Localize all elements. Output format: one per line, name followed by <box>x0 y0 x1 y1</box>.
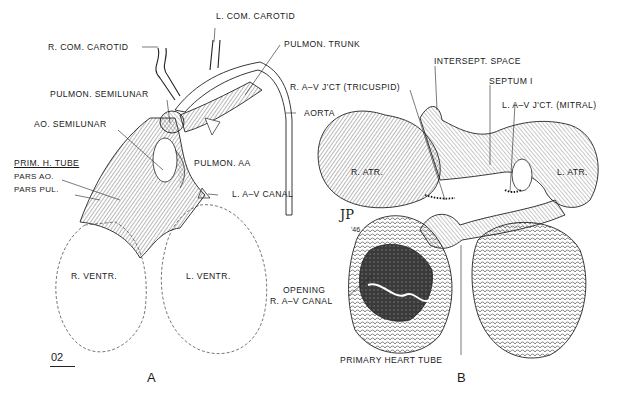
label-opening-line1: OPENING <box>283 286 325 295</box>
label-septum-i: SEPTUM I <box>489 77 533 86</box>
label-aorta: AORTA <box>304 109 335 118</box>
label-l-av-canal: L. A–V CANAL <box>232 190 293 199</box>
scale-label: 02 <box>51 351 63 363</box>
label-pars-pul: PARS PUL. <box>14 186 59 194</box>
label-intersept-space: INTERSEPT. SPACE <box>434 57 521 66</box>
label-l-av-jct: L. A–V J'CT. (MITRAL) <box>502 101 597 110</box>
label-pulmon-semilunar: PULMON. SEMILUNAR <box>50 90 148 99</box>
primary-tube <box>80 118 205 258</box>
panel-letter-b: B <box>457 370 466 385</box>
label-r-com-carotid: R. COM. CAROTID <box>48 43 128 52</box>
label-pulmon-trunk: PULMON. TRUNK <box>284 40 360 49</box>
label-r-av-jct: R. A–V J'CT (TRICUSPID) <box>290 83 400 92</box>
artist-signature: JP <box>340 207 354 222</box>
artist-signature-year: '46 <box>351 226 360 233</box>
label-prim-h-tube: PRIM. H. TUBE <box>14 159 79 168</box>
label-pars-ao: PARS AO. <box>14 173 54 181</box>
label-pulmon-aa: PULMON. AA <box>194 159 251 168</box>
label-l-atr: L. ATR. <box>557 168 588 177</box>
label-r-ventr: R. VENTR. <box>71 272 117 281</box>
heart-diagram <box>0 0 631 393</box>
label-r-atr: R. ATR. <box>351 168 383 177</box>
scale-bar <box>50 366 75 367</box>
pulmonary-trunk <box>180 82 262 132</box>
label-l-com-carotid: L. COM. CAROTID <box>216 12 295 21</box>
label-ao-semilunar: AO. SEMILUNAR <box>34 120 107 129</box>
l-ventricle-b <box>472 222 586 358</box>
label-opening-line2: R. A–V CANAL <box>270 297 333 306</box>
label-l-ventr: L. VENTR. <box>186 272 231 281</box>
l-carotid <box>210 40 220 70</box>
r-atrium <box>318 111 440 208</box>
label-primary-heart-tube: PRIMARY HEART TUBE <box>340 356 442 365</box>
panel-letter-a: A <box>147 370 156 385</box>
